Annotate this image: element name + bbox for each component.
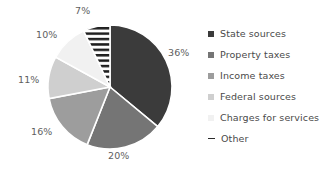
pie-slice-group — [48, 25, 172, 149]
square-swatch-icon — [208, 31, 214, 37]
pie-chart-figure: 36%20%16%11%10%7% State sourcesProperty … — [0, 0, 326, 170]
square-swatch-icon — [208, 94, 214, 100]
legend-item[interactable]: Property taxes — [208, 44, 326, 65]
pie-svg — [0, 0, 200, 170]
pie-data-label: 7% — [75, 6, 90, 16]
legend-item-label: Property taxes — [220, 50, 290, 60]
legend-item[interactable]: Federal sources — [208, 86, 326, 107]
square-swatch-icon — [208, 73, 214, 79]
hatch-line-swatch-icon — [208, 136, 215, 142]
chart-legend: State sourcesProperty taxesIncome taxesF… — [208, 23, 326, 149]
pie-data-label: 16% — [31, 127, 52, 137]
legend-item-label: Income taxes — [220, 71, 285, 81]
legend-item-label: Charges for services — [220, 113, 319, 123]
legend-item[interactable]: Charges for services — [208, 107, 326, 128]
pie-plot-area: 36%20%16%11%10%7% — [0, 0, 200, 170]
legend-item[interactable]: Income taxes — [208, 65, 326, 86]
pie-data-label: 20% — [108, 151, 129, 161]
square-swatch-icon — [208, 115, 214, 121]
legend-item-label: State sources — [220, 29, 286, 39]
pie-data-label: 11% — [18, 75, 39, 85]
legend-item-label: Other — [221, 134, 248, 144]
legend-item[interactable]: Other — [208, 128, 326, 149]
legend-item[interactable]: State sources — [208, 23, 326, 44]
pie-data-label: 36% — [168, 48, 189, 58]
pie-data-label: 10% — [36, 30, 57, 40]
legend-item-label: Federal sources — [220, 92, 296, 102]
square-swatch-icon — [208, 52, 214, 58]
